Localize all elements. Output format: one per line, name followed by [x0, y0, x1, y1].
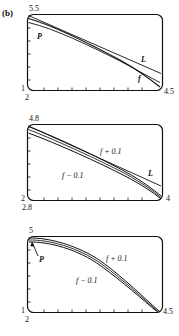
panel-2-y-min-label: 2: [21, 195, 25, 203]
panel-3-x-min-label: 2: [25, 316, 29, 324]
panel-1-curve-label-L: L: [141, 56, 146, 64]
panel-3-y-max-label: 5: [29, 227, 33, 235]
panel-2-curve-f: [29, 130, 162, 198]
plot-panel-1: 5.5 1 2 4.5 P L f: [0, 0, 179, 112]
panel-2-curve-label-f-minus: f − 0.1: [62, 172, 84, 180]
panel-3-y-min-label: 1: [21, 307, 25, 315]
panel-1-y-max-label: 5.5: [29, 5, 39, 13]
panel-3-curve-f-plus: [29, 238, 159, 311]
panel-2-curve-f-minus: [29, 133, 162, 199]
panel-3-P-pointer-arrowhead: [30, 242, 34, 247]
panel-2-y-max-label: 4.8: [29, 115, 39, 123]
panel-2-x-max-label: 4: [166, 195, 170, 203]
panel-3-frame: [28, 237, 163, 313]
panel-1-curve-label-f: f: [138, 75, 141, 83]
panel-2-curve-label-L: L: [148, 170, 153, 178]
panel-1-x-min-label: 2: [25, 94, 29, 102]
panel-2-x-min-label: 2.8: [22, 204, 32, 212]
panel-3-x-max-label: 4.5: [163, 308, 173, 316]
panel-2-frame: [28, 125, 163, 201]
figure-panel-b: (b): [0, 0, 179, 336]
plot-panel-3: 5 1 2 4.5 P f + 0.1 f − 0.1: [0, 224, 179, 336]
panel-2-curve-label-f-plus: f + 0.1: [100, 148, 122, 156]
plot-panel-2: 4.8 2 2.8 4 f + 0.1 f − 0.1 L: [0, 112, 179, 224]
panel-1-curve-label-P: P: [37, 33, 42, 41]
panel-1-frame: [28, 15, 163, 91]
panel-3-curve-label-f-plus: f + 0.1: [106, 255, 128, 263]
panel-3-curve-label-f-minus: f − 0.1: [76, 277, 98, 285]
panel-1-x-max-label: 4.5: [164, 88, 174, 96]
panel-1-curve-L: [29, 16, 162, 74]
panel-3-curve-label-P: P: [39, 256, 44, 264]
panel-1-y-min-label: 1: [21, 85, 25, 93]
